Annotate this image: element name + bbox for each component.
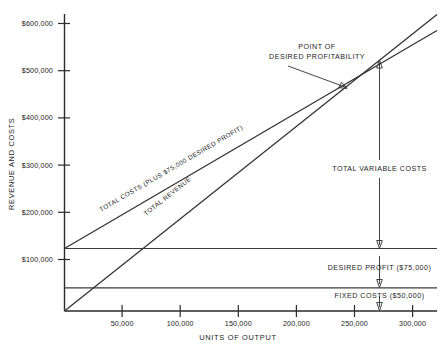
fixed-costs-annotation: FIXED COSTS ($50,000) <box>334 292 424 311</box>
desired-profit-label: DESIRED PROFIT ($75,000) <box>328 264 432 272</box>
y-tick-label-300000: $300,000 <box>22 161 53 170</box>
x-axis-title: UNITS OF OUTPUT <box>199 333 276 342</box>
x-tick-label-150000: 150,000 <box>225 319 252 328</box>
total-variable-costs-label: TOTAL VARIABLE COSTS <box>332 165 427 173</box>
point-of-desired-profitability-label-line1: POINT OF <box>298 43 336 51</box>
y-tick-label-400000: $400,000 <box>22 113 53 122</box>
total-costs-series-label: TOTAL COSTS (PLUS $75,000 DESIRED PROFIT… <box>98 124 244 214</box>
y-tick-label-500000: $500,000 <box>22 66 53 75</box>
x-tick-labels: 50,000 100,000 150,000 200,000 250,000 3… <box>111 319 426 328</box>
y-tick-label-200000: $200,000 <box>22 208 53 217</box>
x-tick-label-250000: 250,000 <box>341 319 368 328</box>
point-of-desired-profitability-label-line2: DESIRED PROFITABILITY <box>269 53 365 61</box>
total-costs-line <box>65 31 438 249</box>
x-tick-label-100000: 100,000 <box>167 319 194 328</box>
y-tick-label-600000: $600,000 <box>22 19 53 28</box>
desired-profit-annotation: DESIRED PROFIT ($75,000) <box>328 256 432 288</box>
point-of-desired-profitability-leader <box>288 66 345 87</box>
fixed-costs-label: FIXED COSTS ($50,000) <box>334 292 424 300</box>
y-tick-label-100000: $100,000 <box>22 255 53 264</box>
x-tick-label-300000: 300,000 <box>399 319 426 328</box>
chart-canvas: $600,000 $500,000 $400,000 $300,000 $200… <box>0 0 444 344</box>
x-tick-label-50000: 50,000 <box>111 319 134 328</box>
x-tick-label-200000: 200,000 <box>283 319 310 328</box>
y-tick-labels: $600,000 $500,000 $400,000 $300,000 $200… <box>22 19 53 264</box>
y-axis-title: REVENUE AND COSTS <box>7 118 16 210</box>
break-even-chart: $600,000 $500,000 $400,000 $300,000 $200… <box>0 0 444 344</box>
